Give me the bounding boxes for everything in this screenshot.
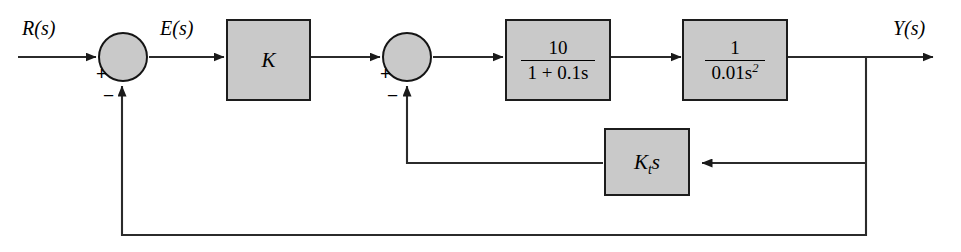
label-error-signal: E(s)	[160, 18, 193, 38]
integrator-denominator-base: 0.01s	[712, 62, 753, 83]
block-rate-feedback-label: Kts	[634, 152, 660, 173]
block-first-order-lag: 10 1 + 0.1s	[505, 19, 611, 101]
block-gain-k: K	[226, 19, 311, 101]
wire-output-to-outer-sum	[122, 86, 866, 235]
inner-sum-minus-sign: −	[387, 86, 398, 105]
block-first-order-lag-label: 10 1 + 0.1s	[521, 37, 596, 83]
integrator-denominator: 0.01s2	[705, 60, 766, 83]
outer-sum-minus-sign: −	[103, 86, 114, 105]
integrator-denominator-exponent: 2	[752, 60, 758, 74]
integrator-numerator: 1	[705, 37, 766, 59]
wire-layer	[0, 0, 961, 252]
block-rate-feedback: Kts	[604, 128, 690, 196]
block-double-integrator-label: 1 0.01s2	[705, 37, 766, 83]
label-input-signal: R(s)	[22, 18, 55, 38]
lag-denominator: 1 + 0.1s	[521, 60, 596, 83]
rate-feedback-suffix: s	[652, 150, 660, 174]
rate-feedback-gain-symbol: K	[634, 150, 648, 174]
inner-sum-plus-sign: +	[380, 64, 391, 83]
block-double-integrator: 1 0.01s2	[682, 19, 788, 101]
label-output-signal: Y(s)	[893, 18, 925, 38]
lag-numerator: 10	[521, 37, 596, 59]
block-gain-k-label: K	[261, 50, 275, 71]
block-diagram: K 10 1 + 0.1s 1 0.01s2 Kts R(s) E(s) Y(s…	[0, 0, 961, 252]
outer-sum-plus-sign: +	[96, 64, 107, 83]
